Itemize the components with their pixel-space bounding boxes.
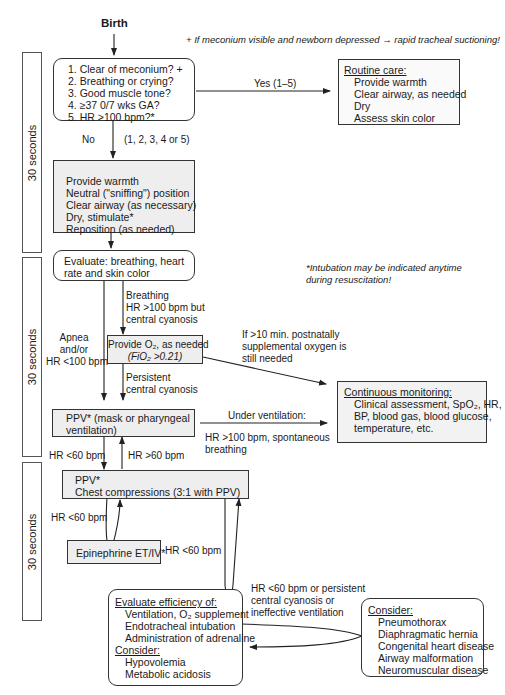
efficiency-consider-item: Hypovolemia [115, 656, 242, 668]
breathing-label: Breathing HR >100 bpm but central cyanos… [126, 290, 205, 326]
compressions-text: Chest compressions (3:1 with PPV) [75, 486, 248, 498]
question-5: 5. HR >100 bpm?* [68, 111, 194, 123]
epinephrine-box: Epinephrine ET/IV* [67, 540, 161, 564]
efficiency-item: Ventilation, O₂ supplement [115, 608, 242, 620]
continuous-monitoring-box: Continuous monitoring: Clinical assessme… [337, 381, 487, 443]
evaluate-text: rate and skin color [64, 267, 194, 279]
initial-step: Neutral ("sniffing") position [66, 187, 194, 199]
supplemental-oxygen-line: If >10 min. postnatally [242, 329, 347, 341]
efficiency-consider-title: Consider: [115, 644, 242, 656]
birth-label: Birth [101, 17, 128, 29]
intubation-note-line: *Intubation may be indicated anytime [306, 262, 462, 274]
yes-label: Yes (1–5) [254, 78, 296, 90]
consider-box: Consider: Pneumothorax Diaphragmatic her… [361, 598, 484, 677]
breathing-label-line: Breathing [126, 290, 205, 302]
time-bar-label: 30 seconds [26, 124, 38, 180]
hr-under-60-epi-label: HR <60 bpm [51, 512, 107, 524]
apnea-label-line: and/or [46, 344, 102, 356]
apnea-label: Apnea and/or HR <100 bpm [46, 332, 102, 368]
under-ventilation-label: Under ventilation: [228, 410, 306, 422]
initial-step: Provide warmth [66, 175, 194, 187]
no-label: No [82, 134, 95, 146]
persistent-cyanosis-line: Persistent [126, 372, 198, 384]
persistent-cyanosis-line: central cyanosis [126, 384, 198, 396]
consider-title: Consider: [368, 604, 483, 616]
breathing-label-line: HR >100 bpm but [126, 302, 205, 314]
supplemental-oxygen-line: still needed [242, 353, 347, 365]
continuous-monitoring-title: Continuous monitoring: [344, 386, 486, 398]
consider-item: Neuromuscular disease [368, 664, 483, 676]
time-bar-2: 30 seconds [22, 257, 42, 457]
consider-item: Diaphragmatic hernia [368, 628, 483, 640]
oxygen-text: Provide O₂, as needed [108, 339, 202, 351]
efficiency-item: Endotracheal intubation [115, 620, 242, 632]
time-bar-label: 30 seconds [26, 513, 38, 569]
time-bar-3: 30 seconds [22, 462, 42, 621]
question-2: 2. Breathing or crying? [68, 75, 194, 87]
initial-steps-box: Provide warmth Neutral ("sniffing") posi… [53, 160, 195, 233]
oxygen-box: Provide O₂, as needed (FiO₂ >0.21) [107, 335, 203, 364]
supplemental-oxygen-label: If >10 min. postnatally supplemental oxy… [242, 329, 347, 365]
breathing-label-line: central cyanosis [126, 314, 205, 326]
question-3: 3. Good muscle tone? [68, 87, 194, 99]
routine-care-item: Clear airway, as needed [344, 88, 459, 100]
ppv-text: PPV* (mask or pharyngeal [66, 412, 194, 424]
epinephrine-text: Epinephrine ET/IV* [76, 547, 160, 559]
hr-over-100-label: HR >100 bpm, spontaneous breathing [205, 432, 330, 456]
ppv-text: ventilation) [66, 424, 194, 436]
routine-care-item: Dry [344, 100, 459, 112]
initial-step: Reposition (as needed) [66, 223, 194, 235]
monitoring-item: Clinical assessment, SpO₂, HR, [344, 398, 486, 410]
evaluate-box: Evaluate: breathing, heart rate and skin… [53, 250, 195, 281]
apnea-label-line: HR <100 bpm [46, 356, 102, 368]
oxygen-fio2: (FiO₂ >0.21) [108, 351, 202, 363]
persistent-cyanosis-label: Persistent central cyanosis [126, 372, 198, 396]
hr-under-60-label: HR <60 bpm [49, 450, 105, 462]
ppv-box: PPV* (mask or pharyngeal ventilation) [52, 409, 195, 437]
hr-over-100-line: HR >100 bpm, spontaneous [205, 432, 330, 444]
efficiency-item: Administration of adrenaline [115, 632, 242, 644]
monitoring-item: temperature, etc. [344, 422, 486, 434]
hr-under-60-epi-right-label: HR <60 bpm [165, 545, 221, 557]
routine-care-box: Routine care: Provide warmth Clear airwa… [338, 59, 460, 125]
intubation-note: *Intubation may be indicated anytime dur… [306, 262, 462, 286]
routine-care-item: Provide warmth [344, 76, 459, 88]
time-bar-1: 30 seconds [22, 52, 42, 253]
routine-care-item: Assess skin color [344, 112, 459, 124]
apnea-label-line: Apnea [46, 332, 102, 344]
initial-step: Clear airway (as necessary) [66, 199, 194, 211]
efficiency-consider-item: Metabolic acidosis [115, 668, 242, 680]
hr-over-60-label: HR >60 bpm [128, 450, 184, 462]
hr-persistent-line: central cyanosis or [251, 595, 365, 607]
hr-persistent-line: HR <60 bpm or persistent [251, 583, 365, 595]
question-4: 4. ≥37 0/7 wks GA? [68, 99, 194, 111]
compressions-text: PPV* [75, 474, 248, 486]
compressions-box: PPV* Chest compressions (3:1 with PPV) [62, 470, 249, 499]
routine-care-title: Routine care: [344, 64, 459, 76]
initial-questions-box: 1. Clear of meconium? + 2. Breathing or … [53, 58, 195, 121]
question-1: 1. Clear of meconium? + [68, 63, 194, 75]
hr-over-100-line: breathing [205, 444, 330, 456]
meconium-note: + If meconium visible and newborn depres… [186, 34, 500, 46]
initial-step: Dry, stimulate* [66, 211, 194, 223]
consider-item: Airway malformation [368, 652, 483, 664]
consider-item: Congenital heart disease [368, 640, 483, 652]
evaluate-text: Evaluate: breathing, heart [64, 255, 194, 267]
hr-under-60-persistent-label: HR <60 bpm or persistent central cyanosi… [251, 583, 365, 619]
consider-item: Pneumothorax [368, 616, 483, 628]
intubation-note-line: during resuscitation! [306, 274, 462, 286]
hr-persistent-line: ineffective ventilation [251, 607, 365, 619]
supplemental-oxygen-line: supplemental oxygen is [242, 341, 347, 353]
evaluate-efficiency-title: Evaluate efficiency of: [115, 596, 242, 608]
monitoring-item: BP, blood gas, blood glucose, [344, 410, 486, 422]
time-bar-label: 30 seconds [26, 329, 38, 385]
evaluate-efficiency-box: Evaluate efficiency of: Ventilation, O₂ … [108, 589, 243, 686]
no-conditions-label: (1, 2, 3, 4 or 5) [124, 134, 190, 146]
